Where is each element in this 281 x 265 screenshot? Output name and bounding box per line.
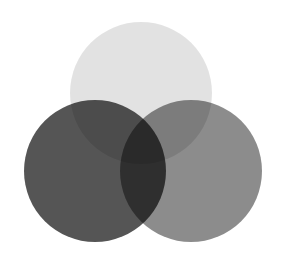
venn-diagram-figure (0, 0, 281, 265)
venn-circle-right (120, 100, 262, 242)
venn-diagram-canvas (0, 0, 281, 265)
